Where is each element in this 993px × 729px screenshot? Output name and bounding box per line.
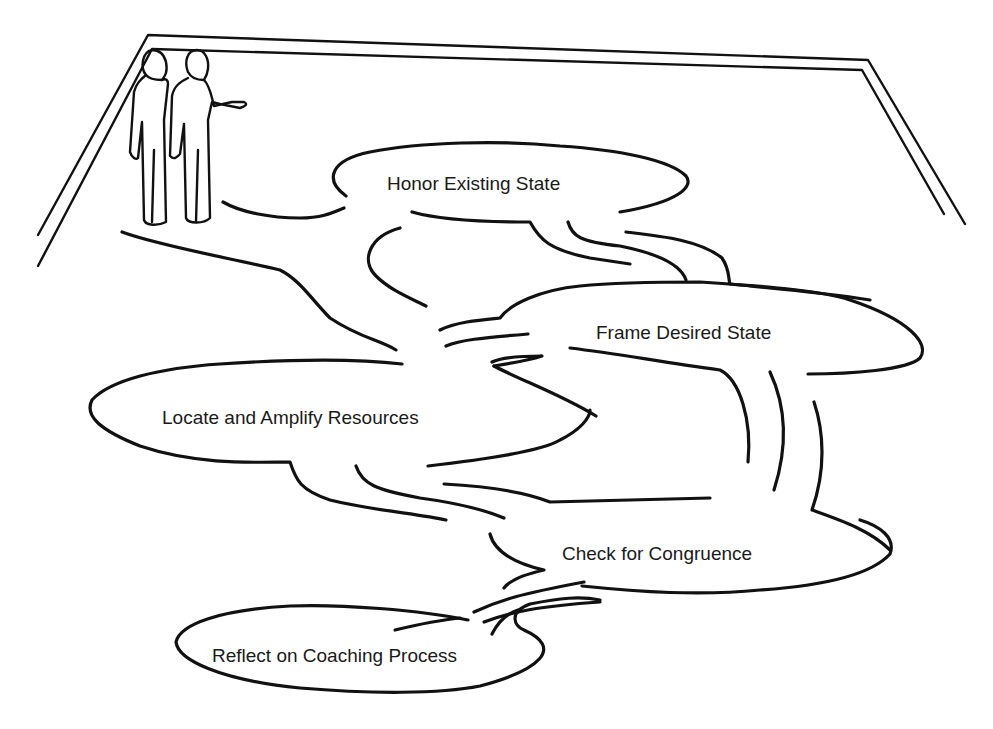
station-label-frame-desired-state: Frame Desired State [596, 323, 771, 342]
path-start [122, 228, 426, 350]
coaching-path-diagram: Honor Existing State Frame Desired State… [0, 0, 993, 729]
pool-check-for-congruence [474, 520, 891, 622]
station-label-reflect-on-coaching-process: Reflect on Coaching Process [212, 646, 457, 665]
pool-honor-existing-state [223, 143, 870, 300]
pool-locate-and-amplify-resources [90, 360, 710, 520]
station-label-honor-existing-state: Honor Existing State [387, 174, 560, 193]
station-label-locate-and-amplify-resources: Locate and Amplify Resources [162, 408, 419, 427]
person-figure-left-icon [130, 50, 168, 225]
person-figure-right-icon [170, 50, 246, 223]
room-frame [38, 35, 965, 266]
station-label-check-for-congruence: Check for Congruence [562, 544, 752, 563]
path-connectors-upper [446, 334, 596, 416]
diagram-drawing [0, 0, 993, 729]
